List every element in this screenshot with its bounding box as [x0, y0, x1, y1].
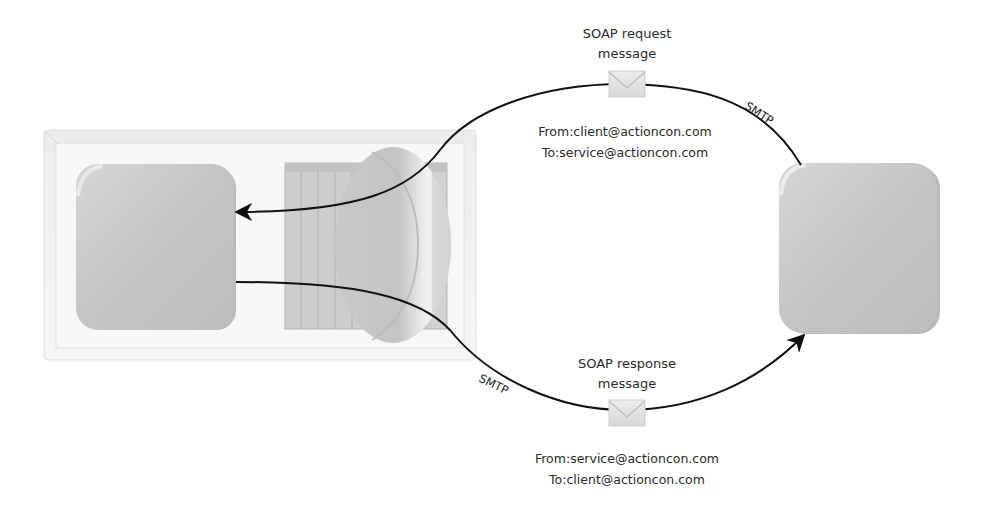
- request-to: To:service@actioncon.com: [541, 145, 708, 160]
- request-transport-label: SMTP: [742, 99, 776, 128]
- service-node[interactable]: [779, 163, 940, 334]
- response-from: From:service@actioncon.com: [535, 451, 719, 466]
- response-envelope-icon[interactable]: [609, 400, 645, 426]
- client-node[interactable]: [76, 164, 236, 330]
- request-envelope-icon[interactable]: [609, 71, 645, 97]
- response-title-line2: message: [598, 376, 656, 391]
- response-title-line1: SOAP response: [578, 356, 676, 371]
- request-title-line1: SOAP request: [583, 26, 672, 41]
- message-queue-icon: [285, 147, 451, 343]
- response-to: To:client@actioncon.com: [548, 472, 705, 487]
- soap-smtp-diagram: SOAP request message From:client@actionc…: [0, 0, 984, 505]
- request-title-line2: message: [598, 46, 656, 61]
- request-from: From:client@actioncon.com: [538, 124, 712, 139]
- response-transport-label: SMTP: [477, 371, 511, 397]
